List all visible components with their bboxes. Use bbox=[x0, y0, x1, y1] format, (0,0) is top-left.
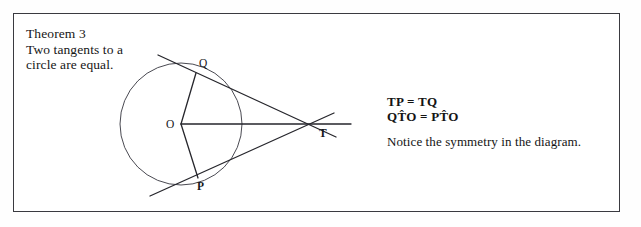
scanned-page: Theorem 3 Two tangents to a circle are e… bbox=[0, 0, 641, 227]
results-block: TP = TQ QT̂O = PT̂O Notice the symmetry … bbox=[387, 95, 617, 149]
symmetry-note: Notice the symmetry in the diagram. bbox=[387, 134, 617, 149]
equation-tangent-lengths: TP = TQ bbox=[387, 95, 617, 110]
equation-tangent-angles: QT̂O = PT̂O bbox=[387, 110, 617, 125]
theorem-statement: Theorem 3 Two tangents to a circle are e… bbox=[26, 26, 186, 73]
